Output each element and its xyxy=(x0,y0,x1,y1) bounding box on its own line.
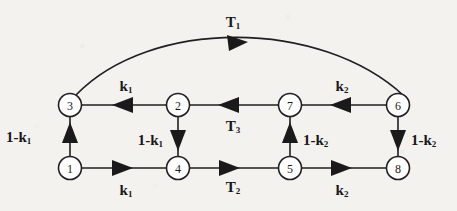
label-T2: T2 xyxy=(226,179,241,196)
node-6[interactable]: 6 xyxy=(387,94,410,117)
node-5[interactable]: 5 xyxy=(279,157,302,180)
diagram-canvas: 1 3 2 4 7 5 6 xyxy=(0,0,457,211)
arrowhead-6-to-7 xyxy=(330,97,351,113)
arrowhead-6-to-8 xyxy=(390,130,406,151)
arrowhead-2-to-3 xyxy=(112,97,133,113)
label-one-minus-k1-mid: 1-k1 xyxy=(138,132,164,149)
label-k2-top: k2 xyxy=(336,78,349,95)
node-2[interactable]: 2 xyxy=(167,94,190,117)
label-one-minus-k2-mid: 1-k2 xyxy=(303,132,329,149)
node-6-label: 6 xyxy=(395,99,401,113)
node-1-label: 1 xyxy=(67,162,73,176)
arrowhead-4-to-5 xyxy=(219,160,240,176)
node-4-label: 4 xyxy=(175,162,181,176)
label-k1-bottom: k1 xyxy=(120,182,133,199)
label-T1: T1 xyxy=(226,14,241,31)
node-8-label: 8 xyxy=(395,162,401,176)
node-3-label: 3 xyxy=(67,99,73,113)
node-3[interactable]: 3 xyxy=(59,94,82,117)
node-4[interactable]: 4 xyxy=(167,157,190,180)
graph-svg: 1 3 2 4 7 5 6 xyxy=(0,0,457,211)
label-one-minus-k2-right: 1-k2 xyxy=(411,132,437,149)
arrowhead-7-to-2 xyxy=(218,97,239,113)
label-one-minus-k1-left: 1-k1 xyxy=(6,129,32,146)
label-k2-bottom: k2 xyxy=(336,182,349,199)
node-7[interactable]: 7 xyxy=(279,94,302,117)
arrowhead-1-to-3 xyxy=(62,122,78,143)
arrowhead-2-to-4 xyxy=(170,130,186,151)
arrowhead-5-to-7 xyxy=(282,122,298,143)
label-T3: T3 xyxy=(226,118,241,135)
node-8[interactable]: 8 xyxy=(387,157,410,180)
arrowhead-1-to-4 xyxy=(112,160,133,176)
node-1[interactable]: 1 xyxy=(59,157,82,180)
node-2-label: 2 xyxy=(175,99,181,113)
node-7-label: 7 xyxy=(287,99,293,113)
arrowhead-5-to-8 xyxy=(331,160,352,176)
node-5-label: 5 xyxy=(287,162,293,176)
label-k1-top: k1 xyxy=(120,78,133,95)
